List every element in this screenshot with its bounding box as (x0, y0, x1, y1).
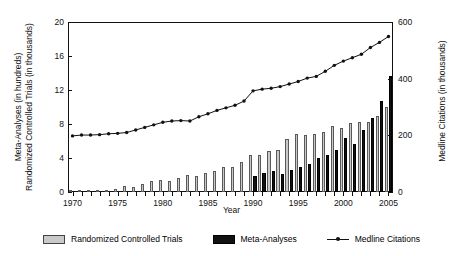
legend-item-meta: Meta-Analyses (213, 234, 297, 244)
medline-data-point (170, 119, 173, 122)
medline-data-point (197, 115, 200, 118)
y-axis-left-title: Meta-Analyses (in hundreds) Randomized C… (13, 17, 35, 197)
medline-data-point (161, 121, 164, 124)
x-axis-tick (262, 192, 263, 196)
x-axis-tick (91, 192, 92, 196)
x-axis-tick (253, 192, 254, 196)
y-axis-right-ticklabel: 0 (398, 187, 424, 197)
medline-data-point (342, 59, 345, 62)
x-axis-tick (334, 192, 335, 196)
x-axis-tick (217, 192, 218, 196)
plot-area (68, 22, 393, 192)
medline-data-point (378, 41, 381, 44)
medline-data-point (98, 133, 101, 136)
legend-item-medline: Medline Citations (327, 234, 420, 244)
y-axis-left-ticklabel: 4 (42, 153, 64, 163)
x-axis-tick (109, 192, 110, 196)
y-axis-left-ticklabel: 0 (42, 187, 64, 197)
x-axis-ticklabel: 1985 (188, 198, 228, 208)
medline-data-point (71, 134, 74, 137)
legend-swatch-rct (43, 235, 65, 244)
medline-data-point (260, 87, 263, 90)
medline-data-point (387, 35, 390, 38)
medline-data-point (206, 112, 209, 115)
legend-item-rct: Randomized Controlled Trials (43, 234, 183, 244)
y-axis-left-ticklabel: 20 (42, 17, 64, 27)
x-axis-ticklabel: 2005 (368, 198, 408, 208)
x-axis-tick (199, 192, 200, 196)
x-axis-tick (226, 192, 227, 196)
x-axis-ticklabel: 2000 (323, 198, 363, 208)
x-axis-tick (208, 192, 209, 196)
y-axis-left-title-line2: Randomized Controlled Trials (in thousan… (24, 17, 35, 197)
x-axis-tick (235, 192, 236, 196)
medline-citations-line (68, 22, 393, 192)
x-axis-tick (307, 192, 308, 196)
medline-data-point (324, 70, 327, 73)
medline-data-point (351, 56, 354, 59)
medline-data-point (134, 128, 137, 131)
legend-label-meta: Meta-Analyses (241, 234, 297, 244)
x-axis-tick (127, 192, 128, 196)
legend-label-medline: Medline Citations (355, 234, 420, 244)
x-axis-tick (190, 192, 191, 196)
x-axis-tick (118, 192, 119, 196)
medline-data-point (179, 119, 182, 122)
x-axis-tick (361, 192, 362, 196)
x-axis-tick (379, 192, 380, 196)
x-axis-tick (289, 192, 290, 196)
x-axis-tick (163, 192, 164, 196)
medline-data-point (333, 64, 336, 67)
x-axis-tick (370, 192, 371, 196)
medline-data-point (89, 133, 92, 136)
medline-data-point (242, 99, 245, 102)
medline-data-point (360, 53, 363, 56)
medline-data-point (143, 126, 146, 129)
legend-swatch-meta (213, 235, 235, 244)
y-axis-left-ticklabel: 16 (42, 51, 64, 61)
x-axis-tick (172, 192, 173, 196)
x-axis-tick (154, 192, 155, 196)
x-axis-tick (388, 192, 389, 196)
x-axis-tick (352, 192, 353, 196)
medline-data-point (188, 119, 191, 122)
y-axis-left-title-line1: Meta-Analyses (in hundreds) (13, 17, 24, 197)
medline-data-point (297, 80, 300, 83)
y-axis-right-ticklabel: 200 (398, 130, 424, 140)
x-axis-tick (244, 192, 245, 196)
medline-data-point (215, 109, 218, 112)
x-axis-tick (100, 192, 101, 196)
medline-data-point (152, 123, 155, 126)
x-axis-tick (298, 192, 299, 196)
medline-data-point (315, 75, 318, 78)
y-axis-right-ticklabel: 600 (398, 17, 424, 27)
medline-data-point (224, 106, 227, 109)
x-axis-tick (280, 192, 281, 196)
medline-data-point (125, 131, 128, 134)
medline-data-point (369, 46, 372, 49)
chart-figure: Meta-Analyses (in hundreds) Randomized C… (0, 0, 463, 256)
medline-data-point (233, 104, 236, 107)
medline-data-point (287, 82, 290, 85)
x-axis-tick (145, 192, 146, 196)
medline-data-point (278, 85, 281, 88)
x-axis-tick (343, 192, 344, 196)
legend-swatch-medline (327, 235, 349, 244)
y-axis-left-ticklabel: 8 (42, 119, 64, 129)
x-axis-tick (136, 192, 137, 196)
medline-data-point (306, 76, 309, 79)
x-axis-ticklabel: 1990 (233, 198, 273, 208)
y-axis-left-tick (68, 192, 72, 193)
medline-data-point (116, 132, 119, 135)
x-axis-tick (325, 192, 326, 196)
x-axis-tick (316, 192, 317, 196)
legend: Randomized Controlled Trials Meta-Analys… (0, 228, 463, 250)
y-axis-right-ticklabel: 400 (398, 74, 424, 84)
medline-data-point (269, 87, 272, 90)
y-axis-right-title: Medline Citations (in thousands) (437, 11, 447, 191)
medline-data-point (251, 89, 254, 92)
x-axis-ticklabel: 1995 (278, 198, 318, 208)
x-axis-tick (271, 192, 272, 196)
legend-label-rct: Randomized Controlled Trials (71, 234, 183, 244)
x-axis-ticklabel: 1975 (98, 198, 138, 208)
